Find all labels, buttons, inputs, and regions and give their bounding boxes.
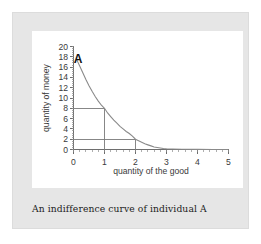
y-tick-label: 2 <box>63 134 68 144</box>
x-tick-label: 3 <box>164 157 169 167</box>
y-tick-label: 18 <box>58 52 68 62</box>
x-tick-label: 5 <box>226 157 231 167</box>
x-tick-label: 1 <box>102 157 107 167</box>
y-tick-label: 4 <box>63 124 68 134</box>
y-tick-label: 6 <box>63 114 68 124</box>
indifference-curve-line <box>77 59 229 149</box>
figure-frame: 02468101214161820 012345 A quantity of t… <box>12 12 249 229</box>
y-axis-tick-labels: 02468101214161820 <box>58 42 68 155</box>
y-tick-label: 10 <box>58 93 68 103</box>
curve-endpoint-label: A <box>74 52 83 66</box>
y-tick-label: 16 <box>58 62 68 72</box>
plot-card: 02468101214161820 012345 A quantity of t… <box>32 31 243 188</box>
figure-root: 02468101214161820 012345 A quantity of t… <box>0 0 261 244</box>
x-axis-tick-labels: 012345 <box>71 157 231 167</box>
x-tick-label: 4 <box>195 157 200 167</box>
x-tick-label: 2 <box>133 157 138 167</box>
x-axis-ticks <box>74 150 229 154</box>
guide-lines-group <box>74 108 136 149</box>
indifference-curve-chart: 02468101214161820 012345 A quantity of t… <box>32 31 243 188</box>
y-tick-label: 12 <box>58 83 68 93</box>
x-tick-label: 0 <box>71 157 76 167</box>
chart-annotations: A <box>74 52 83 66</box>
y-tick-label: 14 <box>58 72 68 82</box>
figure-caption: An indifference curve of individual A <box>32 199 243 219</box>
y-tick-label: 0 <box>63 145 68 155</box>
y-tick-label: 20 <box>58 42 68 52</box>
y-axis-title: quantity of money <box>41 63 51 132</box>
x-axis-title: quantity of the good <box>113 166 189 176</box>
y-tick-label: 8 <box>63 103 68 113</box>
